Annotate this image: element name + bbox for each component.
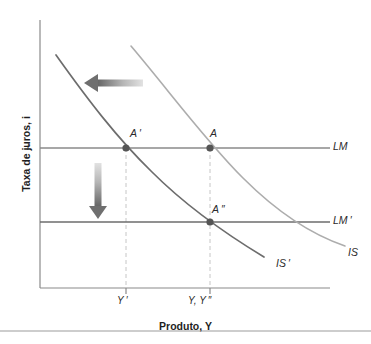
curve-label-is-prime: IS ′ (276, 258, 290, 269)
point-a-marker (206, 144, 213, 151)
curve-is (131, 46, 345, 246)
curve-label-lm-prime: LM ′ (333, 215, 352, 226)
shift-left-arrow (84, 74, 143, 92)
curve-is-prime (56, 55, 264, 257)
curve-label-is: IS (348, 247, 358, 258)
shift-down-arrow (89, 163, 107, 219)
is-lm-figure: Taxa de juros, i Produto, Y i Y ′ Y, Y ″… (0, 0, 371, 344)
plot-canvas (0, 0, 371, 344)
x-tick-label-y-y-doubleprime: Y, Y ″ (188, 296, 211, 306)
point-label-a-prime: A ′ (130, 128, 141, 139)
y-axis-title: Taxa de juros, i (20, 89, 32, 219)
x-tick-label-y-prime: Y ′ (117, 296, 128, 306)
point-a-doubleprime-marker (206, 218, 213, 225)
curve-label-lm: LM (333, 141, 348, 152)
y-tick-label-i: i (27, 142, 29, 152)
point-a-prime-marker (122, 144, 129, 151)
x-axis-title: Produto, Y (0, 320, 371, 332)
point-label-a: A (210, 128, 217, 139)
point-label-a-doubleprime: A ″ (212, 204, 225, 215)
